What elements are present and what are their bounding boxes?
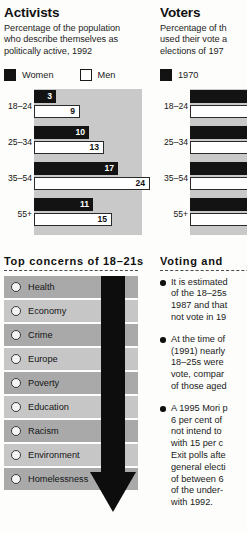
activists-legend: Women Men xyxy=(4,68,138,82)
list-item-europe[interactable]: Europe xyxy=(4,348,138,370)
bullet-line: A 1995 Mori p xyxy=(171,403,247,415)
top-concerns-section: Top concerns of 18–21s Health Economy Cr… xyxy=(4,255,138,490)
voters-subtitle-line-2: used their vote a xyxy=(160,34,247,46)
activists-subtitle-line-2: who describe themselves as xyxy=(4,34,138,46)
bullet-dot-icon xyxy=(160,280,166,286)
bullet-line: of the under- xyxy=(171,485,247,497)
list-item-crime[interactable]: Crime xyxy=(4,324,138,346)
list-item-label: Environment xyxy=(28,450,80,460)
voters-bar-second-25-34 xyxy=(190,141,247,154)
bar-value-women-35-54: 17 xyxy=(104,163,114,173)
activists-subtitle-line-3: politically active, 1992 xyxy=(4,46,138,58)
voters-subtitle-line-1: Percentage of th xyxy=(160,23,247,35)
top-concerns-divider xyxy=(4,270,138,271)
legend-label-women: Women xyxy=(22,70,54,80)
bullet-circle-icon xyxy=(11,402,21,412)
voting-bullet-list: It is estimated of the 18–25s 1987 and t… xyxy=(160,277,247,509)
voting-heading: Voting and xyxy=(160,255,247,267)
legend-swatch-men xyxy=(80,69,92,81)
voting-bullet-3: A 1995 Mori p 6 per cent of not intend t… xyxy=(160,403,247,509)
voters-bar-1970-35-54 xyxy=(190,162,247,175)
voters-bar-chart: 18–24 25–34 35–54 55+ xyxy=(160,89,247,241)
voters-bar-1970-25-34 xyxy=(190,126,247,139)
bullet-circle-icon xyxy=(11,426,21,436)
bullet-line: 18–25s were xyxy=(171,357,247,369)
bar-value-men-55-plus: 15 xyxy=(97,214,107,224)
bullet-line: (1991) nearly xyxy=(171,346,247,358)
list-item-poverty[interactable]: Poverty xyxy=(4,372,138,394)
axis-label-55-plus: 55+ xyxy=(4,209,32,219)
axis-label-35-54: 35–54 xyxy=(4,173,32,183)
voters-bar-second-18-24 xyxy=(190,105,247,118)
voters-bar-1970-18-24 xyxy=(190,90,247,103)
legend-label-men: Men xyxy=(98,70,116,80)
bar-men-18-24: 9 xyxy=(34,105,80,118)
list-item-label: Economy xyxy=(28,306,66,316)
list-item-homelessness[interactable]: Homelessness xyxy=(4,468,138,490)
activists-title: Activists xyxy=(4,6,138,21)
list-item-education[interactable]: Education xyxy=(4,396,138,418)
bullet-line: general electi xyxy=(171,462,247,474)
list-item-racism[interactable]: Racism xyxy=(4,420,138,442)
legend-swatch-women xyxy=(4,69,16,81)
bullet-circle-icon xyxy=(11,306,21,316)
list-item-health[interactable]: Health xyxy=(4,276,138,298)
bullet-line: It is estimated xyxy=(171,277,247,289)
voters-axis-label-35-54: 35–54 xyxy=(160,173,188,183)
top-concerns-heading: Top concerns of 18–21s xyxy=(4,255,138,267)
list-item-label: Homelessness xyxy=(28,474,88,484)
bar-men-35-54: 24 xyxy=(34,177,150,190)
activists-subtitle-line-1: Percentage of the population xyxy=(4,23,138,35)
list-item-label: Health xyxy=(28,282,55,292)
voters-legend: 1970 xyxy=(160,68,247,82)
bullet-line: with 15 per c xyxy=(171,438,247,450)
bullet-line: not vote in 19 xyxy=(171,312,247,324)
bullet-circle-icon xyxy=(11,450,21,460)
bar-men-25-34: 13 xyxy=(34,141,104,154)
bullet-circle-icon xyxy=(11,378,21,388)
list-item-environment[interactable]: Environment xyxy=(4,444,138,466)
voting-section: Voting and It is estimated of the 18–25s… xyxy=(160,255,247,509)
bar-value-women-55-plus: 11 xyxy=(80,199,89,209)
voters-bar-1970-55-plus xyxy=(190,198,247,211)
list-item-label: Poverty xyxy=(28,378,59,388)
bar-women-55-plus: 11 xyxy=(34,198,93,211)
bullet-line: Exit polls afte xyxy=(171,450,247,462)
axis-label-25-34: 25–34 xyxy=(4,137,32,147)
bullet-line: of the 18–25s xyxy=(171,288,247,300)
list-item-economy[interactable]: Economy xyxy=(4,300,138,322)
bullet-line: At the time of xyxy=(171,334,247,346)
right-column: Voters Percentage of th used their vote … xyxy=(160,0,247,519)
axis-label-18-24: 18–24 xyxy=(4,101,32,111)
bullet-circle-icon xyxy=(11,330,21,340)
bullet-dot-icon xyxy=(160,406,166,412)
scanned-page: Activists Percentage of the population w… xyxy=(0,0,247,533)
voters-axis-label-25-34: 25–34 xyxy=(160,137,188,147)
bullet-line: not intend to xyxy=(171,426,247,438)
bullet-circle-icon xyxy=(11,474,21,484)
bullet-line: of those aged xyxy=(171,381,247,393)
voters-title: Voters xyxy=(160,6,247,21)
voting-bullet-2: At the time of (1991) nearly 18–25s were… xyxy=(160,334,247,393)
bullet-line: 1987 and that xyxy=(171,300,247,312)
bar-women-35-54: 17 xyxy=(34,162,118,175)
voters-bar-second-55-plus xyxy=(190,213,247,226)
bullet-line: vote, compar xyxy=(171,369,247,381)
voters-axis-label-55-plus: 55+ xyxy=(160,209,188,219)
bar-value-women-25-34: 10 xyxy=(75,127,85,137)
bar-value-men-25-34: 13 xyxy=(89,142,99,152)
bullet-circle-icon xyxy=(11,354,21,364)
list-item-label: Racism xyxy=(28,426,59,436)
bar-value-men-18-24: 9 xyxy=(70,106,75,116)
voting-bullet-1: It is estimated of the 18–25s 1987 and t… xyxy=(160,277,247,324)
voters-bar-second-35-54 xyxy=(190,177,247,190)
bullet-line: 6 per cent of xyxy=(171,415,247,427)
voters-axis-label-18-24: 18–24 xyxy=(160,101,188,111)
bullet-dot-icon xyxy=(160,337,166,343)
bullet-line: of between 6 xyxy=(171,474,247,486)
voting-divider xyxy=(160,270,247,271)
legend-swatch-1970 xyxy=(160,69,172,81)
list-item-label: Europe xyxy=(28,354,58,364)
bullet-circle-icon xyxy=(11,282,21,292)
bar-men-55-plus: 15 xyxy=(34,213,112,226)
